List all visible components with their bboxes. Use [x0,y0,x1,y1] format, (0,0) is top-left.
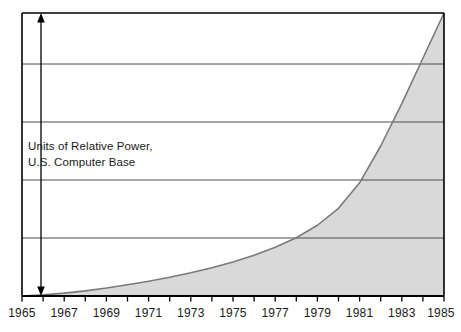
annotation-line-2: U.S. Computer Base [28,154,152,170]
x-axis-label-1983: 1983 [388,306,416,320]
x-axis-label-1969: 1969 [93,306,121,320]
x-axis-label-1977: 1977 [261,306,289,320]
x-axis-label-1971: 1971 [135,306,163,320]
annotation-line-1: Units of Relative Power, [28,138,152,154]
x-axis-label-1965: 1965 [8,306,36,320]
x-axis-label-1981: 1981 [346,306,374,320]
x-axis-label-1979: 1979 [304,306,332,320]
x-axis-ticks [22,296,444,302]
x-axis-label-1975: 1975 [219,306,247,320]
x-axis-label-1985: 1985 [427,306,455,320]
chart-container: Units of Relative Power, U.S. Computer B… [0,0,461,332]
x-axis-label-1967: 1967 [50,306,78,320]
y-axis-annotation: Units of Relative Power, U.S. Computer B… [28,138,152,170]
x-axis-label-1973: 1973 [177,306,205,320]
